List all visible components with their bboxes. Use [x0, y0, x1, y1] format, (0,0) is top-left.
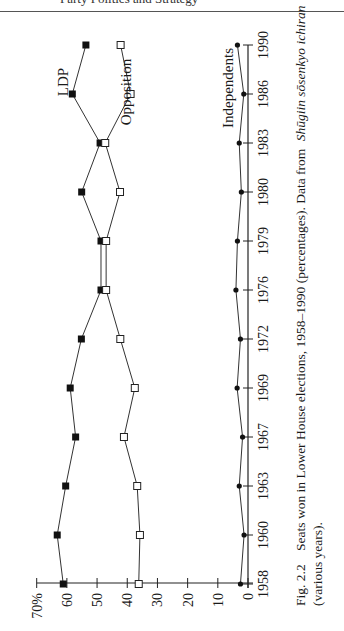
ldp-marker — [72, 434, 79, 441]
independents-marker — [235, 238, 240, 243]
ldp-marker — [78, 189, 85, 196]
value-tick-label: 20 — [181, 593, 196, 607]
independents-marker — [235, 385, 240, 390]
category-tick-label: 1958 — [256, 570, 271, 598]
opposition-marker — [136, 532, 143, 539]
category-tick-label: 1972 — [256, 325, 271, 353]
value-tick-label: 40 — [120, 593, 135, 607]
figure-caption: Fig. 2.2 Seats won in Lower House electi… — [293, 5, 325, 606]
category-tick-label: 1983 — [256, 129, 271, 157]
opposition-marker — [135, 581, 142, 588]
ldp-marker — [67, 385, 74, 392]
category-tick-label: 1976 — [256, 276, 271, 304]
value-tick-label: 70% — [30, 593, 45, 619]
independents-marker — [233, 287, 238, 292]
figure-label: Fig. 2.2 — [293, 564, 308, 606]
seats-line-chart: 010203040506070%195819601963196719691972… — [0, 0, 344, 631]
ldp-marker — [54, 532, 61, 539]
series-line-independents — [236, 45, 244, 584]
independents-marker — [238, 581, 243, 586]
value-tick-label: 60 — [60, 593, 75, 607]
independents-marker — [238, 336, 243, 341]
value-tick-label: 50 — [90, 593, 105, 607]
opposition-marker — [117, 336, 124, 343]
category-tick-label: 1967 — [256, 423, 271, 451]
independents-marker — [235, 42, 240, 47]
opposition-marker — [120, 434, 127, 441]
independents-marker — [237, 483, 242, 488]
value-tick-label: 0 — [241, 593, 256, 600]
value-tick-label: 10 — [211, 593, 226, 607]
opposition-marker — [131, 385, 138, 392]
source-title: Shūgiin sōsenkyo ichiran — [293, 5, 308, 141]
opposition-marker — [134, 483, 141, 490]
independents-label: Independents — [220, 48, 236, 128]
opposition-marker — [102, 140, 109, 147]
category-tick-label: 1990 — [256, 31, 271, 59]
category-tick-label: 1969 — [256, 374, 271, 402]
ldp-marker — [82, 42, 89, 49]
opposition-marker — [103, 287, 110, 294]
independents-marker — [237, 140, 242, 145]
category-tick-label: 1986 — [256, 80, 271, 108]
opposition-label: Opposition — [118, 58, 134, 125]
independents-marker — [241, 532, 246, 537]
series-line-ldp — [57, 45, 101, 584]
caption-line-2: (various years). — [310, 522, 325, 606]
ldp-marker — [60, 581, 67, 588]
value-tick-label: 30 — [150, 593, 165, 607]
ldp-marker — [62, 483, 69, 490]
opposition-marker — [103, 238, 110, 245]
independents-marker — [240, 434, 245, 439]
ldp-label: LDP — [55, 68, 71, 96]
ldp-marker — [78, 336, 85, 343]
opposition-marker — [117, 42, 124, 49]
independents-marker — [241, 91, 246, 96]
opposition-marker — [117, 189, 124, 196]
independents-marker — [239, 189, 244, 194]
chart-series — [54, 42, 247, 588]
category-tick-label: 1980 — [256, 178, 271, 206]
category-tick-label: 1960 — [256, 521, 271, 549]
category-tick-label: 1979 — [256, 227, 271, 255]
category-tick-label: 1963 — [256, 472, 271, 500]
caption-line-1: Fig. 2.2 Seats won in Lower House electi… — [293, 5, 308, 606]
